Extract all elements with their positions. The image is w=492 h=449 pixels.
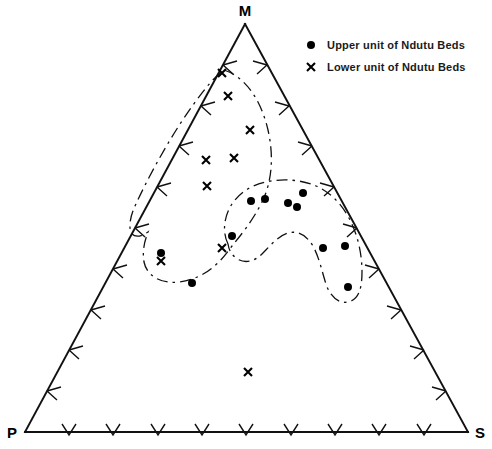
apex-label-bottom-left: P: [7, 424, 17, 441]
tick-bottom-9: [417, 424, 431, 435]
envelope-lower-unit-field: [130, 70, 271, 282]
apex-label-top: M: [239, 2, 252, 19]
data-point-dot: [299, 189, 307, 197]
data-point-dot: [341, 242, 349, 250]
data-point-dot: [284, 199, 292, 207]
tick-bottom-4: [195, 424, 209, 435]
data-point-dot: [247, 197, 255, 205]
legend-label-lower-unit: Lower unit of Ndutu Beds: [327, 61, 466, 73]
tick-marks-left-edge: [47, 61, 237, 400]
tick-right-2: [275, 102, 289, 115]
data-point-cross: [218, 244, 226, 252]
tick-marks-bottom-edge: [62, 424, 431, 435]
envelope-curves: [130, 70, 362, 302]
legend-item-lower-unit: Lower unit of Ndutu Beds: [307, 61, 466, 73]
tick-bottom-5: [239, 424, 253, 435]
data-point-cross: [246, 126, 254, 134]
legend-cross-icon: [307, 63, 315, 71]
tick-right-1: [253, 61, 267, 74]
legend-dot-icon: [307, 41, 315, 49]
data-point-dot: [188, 279, 196, 287]
tick-bottom-6: [284, 424, 298, 435]
ternary-diagram-figure: M P S Upper unit of Ndutu Beds Lower uni…: [0, 0, 492, 449]
data-point-cross: [157, 257, 165, 265]
data-point-dot: [157, 249, 165, 257]
tick-bottom-1: [62, 424, 76, 435]
data-point-dot: [293, 203, 301, 211]
data-point-cross: [224, 92, 232, 100]
legend: Upper unit of Ndutu Beds Lower unit of N…: [307, 39, 466, 73]
ternary-plot-canvas: M P S Upper unit of Ndutu Beds Lower uni…: [0, 0, 492, 449]
tick-left-2: [201, 102, 215, 115]
tick-bottom-3: [151, 424, 165, 435]
legend-item-upper-unit: Upper unit of Ndutu Beds: [307, 39, 465, 51]
tick-left-7: [91, 306, 105, 319]
data-point-dot: [261, 195, 269, 203]
data-point-cross: [203, 182, 211, 190]
tick-right-7: [387, 306, 401, 319]
series-upper-unit-points: [157, 189, 352, 291]
tick-bottom-8: [372, 424, 386, 435]
tick-bottom-7: [328, 424, 342, 435]
data-point-dot: [319, 244, 327, 252]
apex-label-bottom-right: S: [475, 424, 485, 441]
tick-marks-right-edge: [253, 61, 446, 400]
data-point-cross: [230, 154, 238, 162]
data-point-cross: [244, 368, 252, 376]
legend-label-upper-unit: Upper unit of Ndutu Beds: [327, 39, 465, 51]
series-lower-unit-points: [157, 69, 254, 376]
data-point-cross: [202, 156, 210, 164]
data-point-dot: [228, 232, 236, 240]
data-point-dot: [344, 283, 352, 291]
tick-bottom-2: [106, 424, 120, 435]
